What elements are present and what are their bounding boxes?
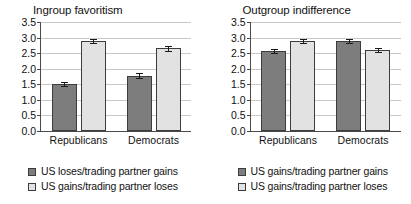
legend-swatch-light-icon xyxy=(28,183,36,191)
y-axis-tick-label: 2.0 xyxy=(21,63,36,74)
legend-swatch-dark-icon xyxy=(238,168,246,176)
bar xyxy=(81,41,106,131)
x-axis-category-labels: RepublicansDemocrats xyxy=(251,134,401,150)
legend-item-label: US gains/trading partner gains xyxy=(251,166,388,177)
error-bar-cap xyxy=(300,39,307,40)
y-axis-tick-mark xyxy=(37,131,41,132)
x-axis-category-label: Democrats xyxy=(128,134,179,146)
legend-item: US loses/trading partner gains xyxy=(28,164,178,179)
error-bar-cap xyxy=(300,43,307,44)
x-axis-baseline xyxy=(250,131,401,132)
x-axis-category-label: Republicans xyxy=(50,134,108,146)
x-axis-category-labels: RepublicansDemocrats xyxy=(41,134,191,150)
error-bar-cap xyxy=(271,53,278,54)
chart-panel-outgroup-indifference: Outgroup indifference 3.53.02.52.01.51.0… xyxy=(206,0,411,204)
legend-item-label: US loses/trading partner gains xyxy=(41,166,178,177)
error-bar-cap xyxy=(271,49,278,50)
bars-layer xyxy=(41,22,191,131)
y-axis-tick-label: 3.5 xyxy=(231,17,246,28)
legend-item-label: US gains/trading partner loses xyxy=(41,181,178,192)
y-axis-tick-label: 0.0 xyxy=(21,126,36,137)
chart-panel-ingroup-favoritism: Ingroup favoritism 3.53.02.52.01.51.00.5… xyxy=(0,0,206,204)
x-axis-category-label: Republicans xyxy=(259,134,317,146)
x-axis-baseline xyxy=(40,131,191,132)
error-bar-cap xyxy=(136,73,143,74)
y-axis-tick-label: 1.0 xyxy=(21,95,36,106)
legend-item: US gains/trading partner loses xyxy=(238,179,388,194)
y-axis-tick-label: 1.5 xyxy=(21,79,36,90)
y-axis-tick-label: 0.5 xyxy=(231,110,246,121)
y-axis-tick-label: 0.0 xyxy=(231,126,246,137)
error-bar-cap xyxy=(61,82,68,83)
legend-swatch-light-icon xyxy=(238,183,246,191)
bar xyxy=(261,51,286,131)
y-axis-tick-label: 2.0 xyxy=(231,63,246,74)
error-bar-cap xyxy=(346,43,353,44)
error-bar-cap xyxy=(165,51,172,52)
y-axis-tick-label: 3.5 xyxy=(21,17,36,28)
legend-item: US gains/trading partner loses xyxy=(28,179,178,194)
y-axis-tick-label: 1.0 xyxy=(231,95,246,106)
y-axis-tick-label: 3.0 xyxy=(21,32,36,43)
plot-area: 3.53.02.52.01.51.00.50.0 xyxy=(41,22,191,131)
error-bar-cap xyxy=(346,39,353,40)
bar xyxy=(52,84,77,131)
legend-swatch-dark-icon xyxy=(28,168,36,176)
error-bar-cap xyxy=(375,48,382,49)
error-bar-cap xyxy=(90,43,97,44)
y-axis-tick-label: 0.5 xyxy=(21,110,36,121)
error-bar-cap xyxy=(375,52,382,53)
legend: US gains/trading partner gains US gains/… xyxy=(238,164,388,194)
error-bar-cap xyxy=(90,39,97,40)
bars-layer xyxy=(251,22,401,131)
error-bar-cap xyxy=(165,46,172,47)
figure-two-panel-bar-charts: Ingroup favoritism 3.53.02.52.01.51.00.5… xyxy=(0,0,411,204)
y-axis-tick-label: 2.5 xyxy=(21,48,36,59)
error-bar-cap xyxy=(136,78,143,79)
error-bar-cap xyxy=(61,86,68,87)
y-axis-tick-label: 2.5 xyxy=(231,48,246,59)
panel-title: Outgroup indifference xyxy=(243,4,351,16)
legend-item: US gains/trading partner gains xyxy=(238,164,388,179)
bar xyxy=(336,41,361,131)
bar xyxy=(290,41,315,131)
y-axis-tick-label: 1.5 xyxy=(231,79,246,90)
y-axis-tick-mark xyxy=(247,131,251,132)
legend-item-label: US gains/trading partner loses xyxy=(251,181,388,192)
legend: US loses/trading partner gains US gains/… xyxy=(28,164,178,194)
bar xyxy=(156,48,181,131)
y-axis-tick-label: 3.0 xyxy=(231,32,246,43)
bar xyxy=(365,50,390,131)
x-axis-category-label: Democrats xyxy=(338,134,389,146)
plot-area: 3.53.02.52.01.51.00.50.0 xyxy=(251,22,401,131)
panel-title: Ingroup favoritism xyxy=(33,4,123,16)
bar xyxy=(127,76,152,131)
